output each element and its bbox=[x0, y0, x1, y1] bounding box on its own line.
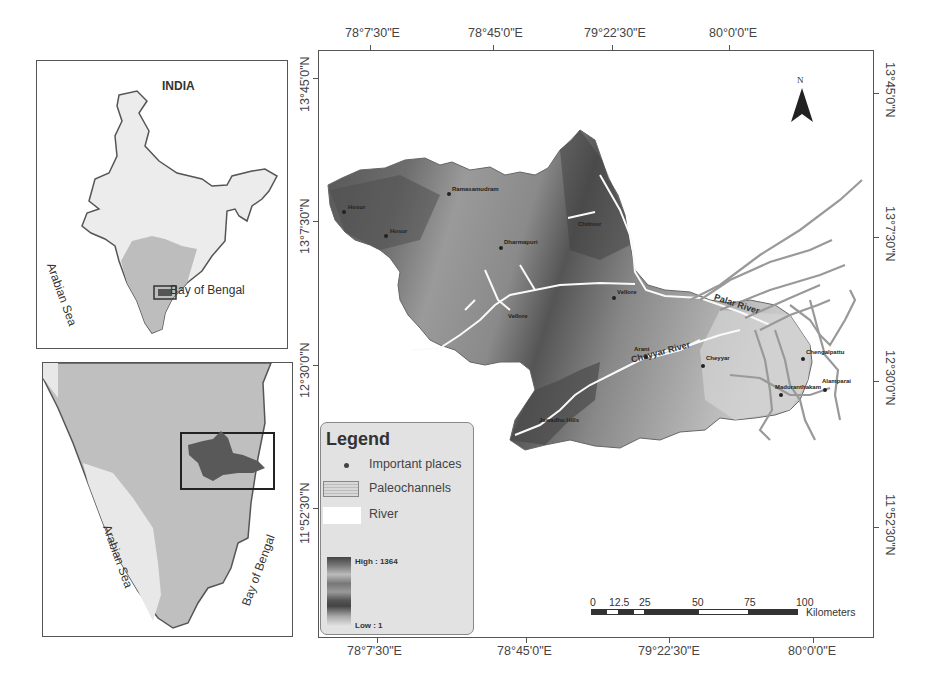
place-marker bbox=[612, 296, 616, 300]
lat-label-right-1: 13°45'0"N bbox=[883, 62, 897, 118]
india-inset-frame: INDIA Bay of Bengal Arabian Sea bbox=[36, 60, 288, 349]
scale-tick-25: 25 bbox=[639, 596, 651, 608]
legend-item-important-places: Important places bbox=[369, 457, 461, 471]
scale-seg bbox=[591, 609, 606, 615]
lat-tick-right-3 bbox=[874, 381, 879, 382]
paleochannels-symbol-icon bbox=[323, 481, 359, 497]
elevation-high-label: High : 1364 bbox=[355, 557, 398, 566]
lat-label-left-4: 11°52'30"N bbox=[298, 482, 312, 544]
scale-tick-50: 50 bbox=[692, 596, 704, 608]
place-label: Chittoor bbox=[578, 221, 601, 227]
lon-label-bottom-1: 78°7'30"E bbox=[347, 644, 402, 658]
lat-label-left-1: 13°45'0"N bbox=[298, 56, 312, 112]
scale-bar bbox=[591, 609, 798, 615]
place-label: Hosur bbox=[348, 204, 365, 210]
legend-panel: Legend Important places Paleochannels Ri… bbox=[320, 422, 474, 635]
lon-tick-bottom-2 bbox=[526, 638, 527, 643]
lat-label-left-2: 13°7'30"N bbox=[298, 198, 312, 254]
lon-label-top-3: 79°22'30"E bbox=[584, 26, 646, 40]
river-symbol-icon bbox=[323, 507, 361, 524]
place-label: Vellore bbox=[617, 289, 637, 295]
place-label: Ramasamudram bbox=[452, 186, 499, 192]
scale-unit: Kilometers bbox=[806, 606, 856, 618]
north-arrow-label: N bbox=[797, 75, 804, 85]
lon-tick-bottom-4 bbox=[813, 638, 814, 643]
lon-label-top-4: 80°0'0"E bbox=[709, 26, 757, 40]
legend-item-paleochannels: Paleochannels bbox=[369, 481, 451, 495]
lon-tick-bottom-1 bbox=[377, 638, 378, 643]
place-marker bbox=[801, 357, 805, 361]
lon-label-bottom-3: 79°22'30"E bbox=[638, 644, 700, 658]
lat-label-right-2: 13°7'30"N bbox=[883, 206, 897, 262]
place-label: Alamparai bbox=[822, 378, 851, 384]
place-marker bbox=[447, 192, 451, 196]
legend-title: Legend bbox=[326, 429, 390, 450]
place-label: Cheyyar bbox=[706, 355, 730, 361]
scale-tick-0: 0 bbox=[590, 596, 596, 608]
place-marker bbox=[779, 393, 783, 397]
lon-label-top-1: 78°7'30"E bbox=[345, 26, 400, 40]
place-label: Hosur bbox=[390, 228, 407, 234]
north-arrow-icon bbox=[790, 88, 814, 124]
place-marker bbox=[644, 355, 648, 359]
india-outline-map bbox=[37, 61, 287, 348]
lon-label-bottom-4: 80°0'0"E bbox=[788, 644, 836, 658]
india-bay-of-bengal-label: Bay of Bengal bbox=[170, 283, 245, 297]
place-label: Jawadhu Hills bbox=[539, 417, 579, 423]
lat-tick-right-4 bbox=[874, 527, 879, 528]
scale-seg bbox=[645, 609, 698, 615]
elevation-color-ramp bbox=[327, 557, 351, 627]
tn-inset-frame: Arabian Sea Bay of Bengal bbox=[42, 362, 293, 637]
scale-seg bbox=[606, 609, 619, 615]
scale-seg bbox=[749, 609, 798, 615]
scale-tick-12-5: 12.5 bbox=[609, 596, 629, 608]
important-places-symbol-icon bbox=[344, 463, 349, 468]
place-marker bbox=[342, 210, 346, 214]
legend-item-river: River bbox=[369, 507, 398, 521]
scale-seg bbox=[698, 609, 749, 615]
scale-seg bbox=[619, 609, 633, 615]
lat-tick-right-1 bbox=[874, 93, 879, 94]
place-label: Vellore bbox=[508, 313, 528, 319]
lon-tick-bottom-3 bbox=[669, 638, 670, 643]
lon-label-top-2: 78°45'0"E bbox=[468, 26, 523, 40]
place-marker bbox=[384, 234, 388, 238]
lat-label-right-4: 11°52'30"N bbox=[883, 494, 897, 556]
place-label: Dharmapuri bbox=[504, 239, 538, 245]
lat-label-left-3: 12°30'0"N bbox=[298, 342, 312, 398]
lat-tick-right-2 bbox=[874, 237, 879, 238]
place-label: Arani bbox=[634, 346, 649, 352]
place-marker bbox=[701, 364, 705, 368]
scale-tick-75: 75 bbox=[744, 596, 756, 608]
lon-label-bottom-2: 78°45'0"E bbox=[497, 644, 552, 658]
scale-seg bbox=[633, 609, 645, 615]
place-label: Maduranthakam bbox=[775, 384, 821, 390]
lat-label-right-3: 12°30'0"N bbox=[883, 350, 897, 406]
place-marker bbox=[499, 246, 503, 250]
elevation-low-label: Low : 1 bbox=[355, 621, 383, 630]
place-marker bbox=[823, 388, 827, 392]
place-label: Chengalpattu bbox=[806, 349, 844, 355]
